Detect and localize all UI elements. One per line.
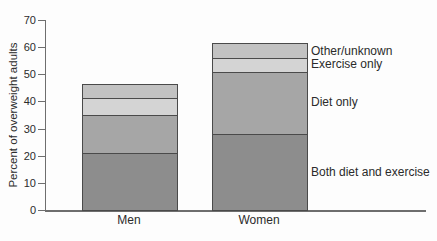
series-label-diet-only: Diet only (311, 96, 358, 109)
segment-women-exercise-only (213, 58, 307, 72)
y-tick-0 (38, 210, 45, 211)
series-label-both-diet-and-exercise: Both diet and exercise (311, 166, 430, 179)
y-tick-label-20: 20 (8, 150, 36, 162)
y-tick-label-0: 0 (8, 204, 36, 216)
y-axis-line (45, 20, 46, 211)
y-tick-70 (38, 20, 45, 21)
y-tick-label-40: 40 (8, 95, 36, 107)
y-tick-label-30: 30 (8, 123, 36, 135)
series-label-exercise-only: Exercise only (311, 58, 382, 71)
segment-men-diet-only (83, 115, 177, 153)
y-tick-50 (38, 74, 45, 75)
stacked-bar-chart: Percent of overweight adults 01020304050… (0, 0, 437, 241)
segment-women-both-diet-and-exercise (213, 134, 307, 210)
y-tick-60 (38, 47, 45, 48)
y-tick-label-10: 10 (8, 177, 36, 189)
segment-men-other-unknown (83, 85, 177, 98)
y-tick-label-70: 70 (8, 14, 36, 26)
y-tick-30 (38, 129, 45, 130)
bar-women (212, 43, 308, 211)
segment-women-diet-only (213, 72, 307, 134)
segment-men-both-diet-and-exercise (83, 153, 177, 210)
y-tick-20 (38, 156, 45, 157)
bar-men (82, 84, 178, 211)
segment-women-other-unknown (213, 44, 307, 57)
segment-men-exercise-only (83, 98, 177, 115)
y-tick-40 (38, 101, 45, 102)
y-axis-title: Percent of overweight adults (6, 30, 20, 200)
series-label-other-unknown: Other/unknown (311, 45, 392, 58)
x-label-men: Men (81, 213, 177, 227)
y-tick-label-50: 50 (8, 68, 36, 80)
y-tick-10 (38, 183, 45, 184)
x-label-women: Women (211, 213, 307, 227)
y-tick-label-60: 60 (8, 41, 36, 53)
